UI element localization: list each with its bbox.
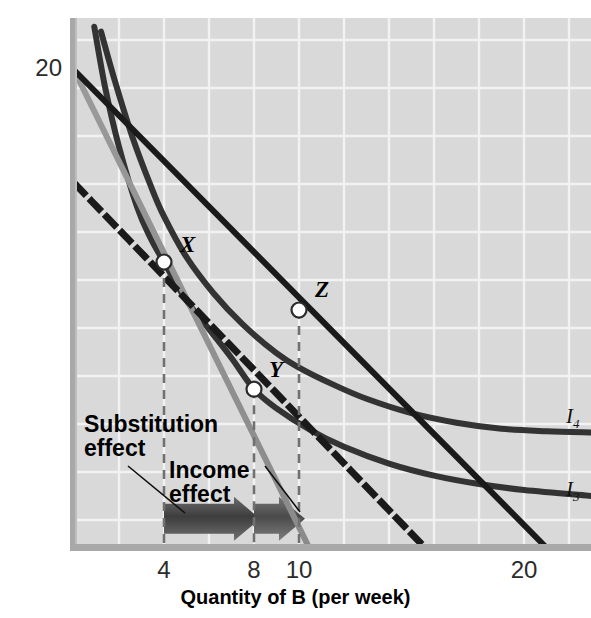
substitution-effect-label: Substitution effect: [84, 412, 218, 460]
point-z-label: Z: [315, 277, 329, 303]
point-y-label: Y: [269, 357, 283, 383]
income-effect-label: Income effect: [169, 458, 250, 506]
curve-budget-line-compensated: [76, 185, 427, 550]
plot-area: [70, 18, 591, 551]
y-axis-spine: [70, 18, 77, 551]
curve-label-i4-base: I: [566, 404, 573, 428]
x-tick-label-10: 10: [269, 556, 329, 584]
point-z-marker: [292, 303, 307, 318]
plot-svg: [70, 18, 591, 551]
y-tick-label-20: 20: [0, 54, 62, 82]
curve-label-i4: I4: [566, 404, 580, 432]
curve-label-i3-subscript: 3: [573, 489, 580, 504]
curve-budget-line-new: [74, 70, 549, 550]
point-y-marker: [247, 382, 262, 397]
gridlines: [70, 18, 591, 545]
x-tick-label-4: 4: [134, 556, 194, 584]
figure-root: 48102020 XYZ I4 I3 Substitution effect I…: [0, 0, 591, 618]
curve-label-i3-base: I: [566, 477, 573, 501]
x-axis-spine: [70, 544, 591, 551]
x-tick-label-20: 20: [494, 556, 554, 584]
curve-label-i3: I3: [566, 477, 580, 505]
x-axis-title: Quantity of B (per week): [0, 586, 591, 609]
point-x-label: X: [180, 232, 195, 258]
point-x-marker: [157, 255, 172, 270]
curve-label-i4-subscript: 4: [573, 416, 580, 431]
